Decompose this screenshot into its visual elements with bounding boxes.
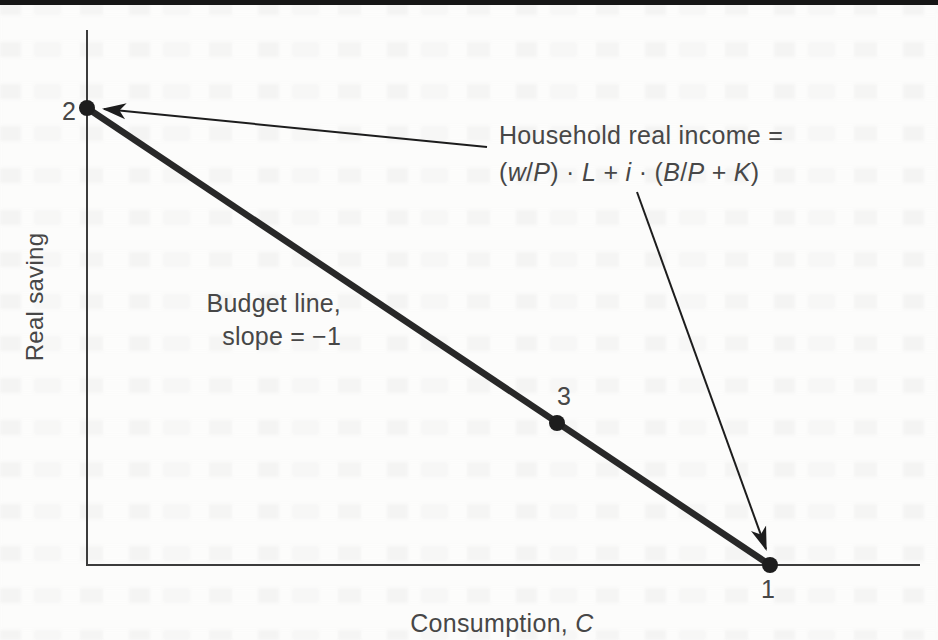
scan-top-rule [0, 0, 938, 5]
formula-variable: B [663, 158, 680, 186]
formula-variable: P [687, 158, 704, 186]
formula-operator: ( [499, 158, 508, 186]
formula-variable: K [734, 158, 751, 186]
formula-operator: + [704, 158, 733, 186]
textbook-figure-budget-line: Real saving Consumption, C 2 3 1 Budget … [0, 0, 938, 640]
budget-line-annotation-line2: slope = −1 [141, 320, 341, 353]
budget-line-annotation: Budget line, slope = −1 [141, 287, 341, 353]
point-label-3: 3 [534, 382, 594, 410]
point-2-dot [79, 100, 95, 116]
formula-operator: · ( [631, 158, 663, 186]
formula-variable: L [582, 158, 596, 186]
income-formula: (w/P) · L + i · (B/P + K) [499, 154, 819, 191]
formula-variable: P [533, 158, 550, 186]
arrow-to-point-2 [104, 109, 487, 147]
x-axis-label: Consumption, C [347, 609, 657, 638]
formula-operator: ) [751, 158, 760, 186]
formula-operator: ) · [550, 158, 582, 186]
formula-variable: w [508, 158, 526, 186]
household-income-annotation: Household real income = (w/P) · L + i · … [499, 117, 819, 191]
point-1-dot [762, 557, 778, 573]
x-axis-label-variable: C [575, 609, 593, 637]
formula-operator: + [596, 158, 625, 186]
y-axis-label: Real saving [19, 197, 51, 397]
point-label-2: 2 [16, 97, 76, 125]
point-label-1: 1 [738, 575, 798, 603]
arrow-to-point-1 [637, 192, 766, 549]
x-axis-label-text: Consumption, [410, 609, 575, 637]
household-income-line1: Household real income = [499, 117, 819, 154]
point-3-dot [549, 415, 565, 431]
budget-line-annotation-line1: Budget line, [141, 287, 341, 320]
